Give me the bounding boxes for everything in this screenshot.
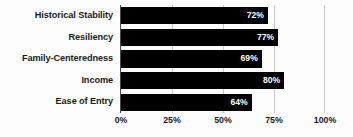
category-label: Family-Centeredness — [22, 48, 113, 70]
plot-area: 72% 77% 69% 80% 64% — [121, 5, 325, 113]
bar-value-label: 77% — [121, 29, 278, 46]
category-label: Ease of Entry — [56, 91, 113, 113]
bar-row: 69% — [121, 48, 325, 70]
category-label: Income — [81, 70, 113, 92]
category-label: Resiliency — [69, 27, 113, 49]
tick-label: 75% — [265, 115, 283, 125]
tick-label: 25% — [163, 115, 181, 125]
bar-chart: Historical Stability Resiliency Family-C… — [0, 0, 353, 137]
bar-row: 80% — [121, 70, 325, 92]
value-axis-tick-labels: 0% 25% 50% 75% 100% — [0, 115, 353, 131]
tick-label: 50% — [214, 115, 232, 125]
bar-value-label: 69% — [121, 50, 262, 67]
category-axis-labels: Historical Stability Resiliency Family-C… — [0, 5, 117, 113]
tick-label: 0% — [115, 115, 128, 125]
bar-row: 64% — [121, 91, 325, 113]
bar-row: 77% — [121, 27, 325, 49]
bar-value-label: 72% — [121, 7, 268, 24]
tick-label: 100% — [314, 115, 337, 125]
bar-row: 72% — [121, 5, 325, 27]
bar-value-label: 80% — [121, 72, 284, 89]
category-label: Historical Stability — [35, 5, 113, 27]
bar-value-label: 64% — [121, 94, 252, 111]
